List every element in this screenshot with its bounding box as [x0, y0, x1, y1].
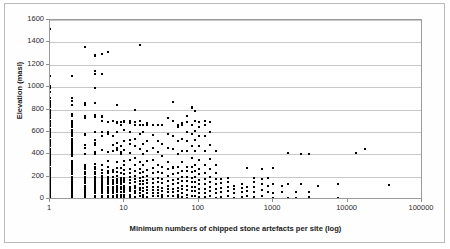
data-point: [161, 155, 163, 157]
data-point: [142, 164, 144, 166]
data-point: [172, 148, 174, 150]
data-point: [123, 169, 125, 171]
data-point: [146, 140, 148, 142]
data-point: [177, 153, 179, 155]
data-point: [94, 144, 96, 146]
data-point: [241, 187, 243, 189]
data-point: [186, 121, 188, 123]
data-point: [181, 170, 183, 172]
data-point: [134, 138, 136, 140]
data-point: [161, 194, 163, 196]
data-point: [134, 121, 136, 123]
data-point: [112, 171, 114, 173]
data-point: [49, 75, 51, 77]
data-point: [308, 191, 310, 193]
data-point: [317, 185, 319, 187]
data-point: [204, 192, 206, 194]
data-point: [233, 188, 235, 190]
data-point: [186, 198, 188, 199]
data-point: [209, 181, 211, 183]
data-point: [120, 124, 122, 126]
data-point: [194, 120, 196, 122]
data-point: [167, 185, 169, 187]
data-point: [142, 183, 144, 185]
data-point: [146, 175, 148, 177]
data-point: [295, 197, 297, 199]
data-point: [157, 195, 159, 197]
data-point: [146, 192, 148, 194]
data-point: [157, 177, 159, 179]
gridline-y-1200: [50, 65, 421, 66]
data-point: [167, 147, 169, 149]
data-point: [101, 149, 103, 151]
data-point: [181, 180, 183, 182]
data-point: [129, 168, 131, 170]
data-point: [49, 91, 51, 93]
data-point: [181, 192, 183, 194]
data-point: [120, 188, 122, 190]
figure-container: 0200400600800100012001400160011010010001…: [0, 0, 450, 249]
data-point: [157, 171, 159, 173]
data-point: [186, 194, 188, 196]
data-point: [142, 187, 144, 189]
data-point: [134, 164, 136, 166]
data-point: [139, 168, 141, 170]
data-point: [181, 176, 183, 178]
data-point: [71, 198, 73, 199]
data-point: [134, 178, 136, 180]
data-point: [94, 139, 96, 141]
data-point: [123, 149, 125, 151]
data-point: [186, 189, 188, 191]
data-point: [94, 153, 96, 155]
data-point: [152, 198, 154, 199]
data-point: [157, 186, 159, 188]
data-point: [142, 176, 144, 178]
data-point: [152, 195, 154, 197]
data-point: [146, 179, 148, 181]
data-point: [287, 152, 289, 154]
data-point: [198, 198, 200, 199]
data-point: [186, 185, 188, 187]
data-point: [142, 171, 144, 173]
data-point: [71, 100, 73, 102]
data-point: [146, 186, 148, 188]
data-point: [172, 101, 174, 103]
data-point: [167, 180, 169, 182]
data-point: [116, 122, 118, 124]
data-point: [204, 135, 206, 137]
data-point: [84, 168, 86, 170]
data-point: [142, 143, 144, 145]
data-point: [215, 197, 217, 199]
data-point: [209, 131, 211, 133]
data-point: [191, 107, 193, 109]
data-point: [49, 28, 51, 30]
data-point: [209, 176, 211, 178]
data-point: [181, 188, 183, 190]
data-point: [300, 183, 302, 185]
data-point: [186, 170, 188, 172]
data-point: [272, 197, 274, 199]
data-point: [94, 55, 96, 57]
data-point: [123, 164, 125, 166]
data-point: [116, 149, 118, 151]
data-point: [194, 170, 196, 172]
data-point: [112, 198, 114, 199]
data-point: [287, 197, 289, 199]
data-point: [107, 198, 109, 199]
data-point: [246, 195, 248, 197]
data-point: [181, 124, 183, 126]
data-point: [84, 153, 86, 155]
data-point: [287, 183, 289, 185]
data-point: [172, 120, 174, 122]
data-point: [152, 182, 154, 184]
data-point: [177, 194, 179, 196]
data-point: [107, 151, 109, 153]
data-point: [142, 198, 144, 199]
data-point: [204, 120, 206, 122]
data-point: [157, 151, 159, 153]
data-point: [167, 133, 169, 135]
data-point: [161, 182, 163, 184]
data-point: [194, 130, 196, 132]
data-point: [94, 102, 96, 104]
data-point: [227, 177, 229, 179]
